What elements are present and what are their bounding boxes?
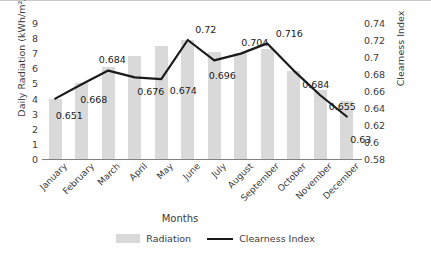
- y-axis-left-tick: 5: [32, 79, 38, 88]
- plot-area: 0.6510.6680.6840.6760.6740.720.6960.7040…: [42, 23, 360, 159]
- x-axis-line: [42, 159, 362, 160]
- data-label-august: 0.704: [241, 36, 268, 47]
- chart-legend: Radiation Clearness Index: [0, 233, 431, 244]
- x-axis-tick-label: May: [155, 161, 175, 181]
- clearness-index-line: [42, 23, 360, 159]
- legend-item-clearness-index[interactable]: Clearness Index: [207, 233, 315, 244]
- x-axis-tick-label: July: [210, 161, 229, 180]
- y-axis-right-tick: 0.7: [364, 53, 379, 62]
- data-label-september: 0.716: [276, 28, 303, 39]
- y-axis-right-ticks: 0.580.60.620.640.660.680.70.720.74: [364, 23, 392, 159]
- data-label-march: 0.684: [99, 53, 126, 64]
- legend-label-radiation: Radiation: [146, 233, 191, 244]
- data-label-july: 0.696: [209, 70, 236, 81]
- y-axis-left-tick: 8: [32, 34, 38, 43]
- y-axis-left-tick: 6: [32, 64, 38, 73]
- legend-item-radiation[interactable]: Radiation: [116, 233, 191, 244]
- y-axis-left-ticks: 0123456789: [22, 23, 38, 159]
- y-axis-left-tick: 9: [32, 19, 38, 28]
- data-label-october: 0.684: [302, 78, 329, 89]
- y-axis-left-tick: 2: [32, 124, 38, 133]
- y-axis-right-tick: 0.68: [364, 70, 385, 79]
- y-axis-left-tick: 7: [32, 49, 38, 58]
- y-axis-right-tick: 0.66: [364, 87, 385, 96]
- y-axis-right-tick: 0.64: [364, 104, 385, 113]
- y-axis-right-tick: 0.6: [364, 138, 379, 147]
- data-label-november: 0.655: [329, 101, 356, 112]
- legend-line-swatch-icon: [207, 238, 233, 240]
- legend-bar-swatch-icon: [116, 234, 140, 243]
- x-axis-tick-label: June: [181, 161, 202, 182]
- data-label-january: 0.651: [56, 109, 83, 120]
- legend-label-clearness-index: Clearness Index: [239, 233, 315, 244]
- y-axis-left-tick: 3: [32, 109, 38, 118]
- y-axis-right-tick: 0.62: [364, 121, 385, 130]
- y-axis-right-tick: 0.74: [364, 19, 385, 28]
- y-axis-right-title: Clearness Index: [395, 0, 406, 119]
- x-axis-tick-labels: JanuaryFebruaryMarchAprilMayJuneJulyAugu…: [42, 161, 360, 209]
- y-axis-left-tick: 4: [32, 94, 38, 103]
- data-label-may: 0.674: [170, 85, 197, 96]
- x-axis-tick-label: March: [96, 161, 122, 187]
- data-label-april: 0.676: [137, 86, 164, 97]
- y-axis-right-tick: 0.58: [364, 155, 385, 164]
- y-axis-right-tick: 0.72: [364, 36, 385, 45]
- y-axis-left-tick: 0: [32, 155, 38, 164]
- chart-container: Daily Radiation (kWh/m²/day) 0123456789 …: [0, 0, 431, 258]
- data-label-february: 0.668: [80, 94, 107, 105]
- y-axis-left-tick: 1: [32, 139, 38, 148]
- x-axis-title: Months: [0, 213, 360, 224]
- x-axis-tick-label: April: [127, 161, 149, 183]
- data-label-june: 0.72: [195, 24, 216, 35]
